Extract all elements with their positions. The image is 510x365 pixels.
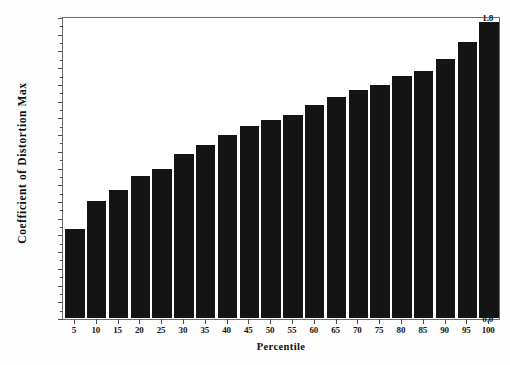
x-tick-label: 65 — [331, 325, 340, 335]
y-tick-mark — [58, 219, 63, 220]
bar — [109, 190, 129, 318]
y-tick-mark-minor — [60, 311, 63, 312]
bar — [131, 176, 151, 318]
x-tick-label: 50 — [266, 325, 275, 335]
x-tick-label: 95 — [462, 325, 471, 335]
bar — [479, 22, 499, 319]
y-axis-title: Coefficient of Distortion Max — [11, 13, 33, 313]
x-tick-mark — [466, 319, 467, 324]
x-tick-mark — [270, 319, 271, 324]
x-tick-mark — [401, 319, 402, 324]
x-tick-label: 80 — [397, 325, 406, 335]
y-tick-mark — [58, 85, 63, 86]
y-tick-mark — [58, 18, 63, 19]
y-tick-mark — [58, 269, 63, 270]
bar — [436, 59, 456, 318]
x-tick-mark — [336, 319, 337, 324]
x-tick-label: 55 — [288, 325, 297, 335]
y-tick-mark-minor — [60, 244, 63, 245]
x-tick-mark — [314, 319, 315, 324]
y-tick-mark-minor — [60, 60, 63, 61]
bar — [349, 90, 369, 318]
bar — [152, 169, 172, 319]
x-tick-label: 35 — [200, 325, 209, 335]
y-tick-mark — [58, 152, 63, 153]
x-tick-mark — [161, 319, 162, 324]
y-tick-mark — [58, 35, 63, 36]
x-tick-mark — [96, 319, 97, 324]
y-tick-mark-minor — [60, 127, 63, 128]
y-tick-mark-minor — [60, 227, 63, 228]
y-tick-mark — [58, 118, 63, 119]
y-tick-mark — [58, 302, 63, 303]
bar — [392, 76, 412, 318]
y-tick-mark-minor — [60, 260, 63, 261]
y-tick-mark-minor — [60, 294, 63, 295]
x-tick-label: 85 — [418, 325, 427, 335]
x-tick-label: 60 — [309, 325, 318, 335]
x-tick-mark — [445, 319, 446, 324]
bar — [305, 105, 325, 318]
y-tick-mark — [58, 202, 63, 203]
bar — [458, 42, 478, 318]
x-tick-label: 40 — [222, 325, 231, 335]
bar — [370, 85, 390, 318]
x-tick-mark — [205, 319, 206, 324]
y-tick-mark-minor — [60, 77, 63, 78]
x-tick-mark — [357, 319, 358, 324]
bar — [283, 115, 303, 318]
bar — [65, 229, 85, 318]
bar — [196, 145, 216, 318]
x-tick-label: 75 — [375, 325, 384, 335]
y-tick-mark — [58, 135, 63, 136]
y-tick-mark — [58, 185, 63, 186]
bar — [87, 201, 107, 318]
y-tick-mark-minor — [60, 210, 63, 211]
x-tick-mark — [227, 319, 228, 324]
bar — [240, 126, 260, 318]
bar-chart-figure: Coefficient of Distortion Max 0.00.10.20… — [0, 0, 510, 365]
y-tick-mark-minor — [60, 143, 63, 144]
y-tick-mark-minor — [60, 26, 63, 27]
x-tick-label: 20 — [135, 325, 144, 335]
x-tick-mark — [248, 319, 249, 324]
x-tick-label: 10 — [91, 325, 100, 335]
x-tick-mark — [183, 319, 184, 324]
x-tick-label: 45 — [244, 325, 253, 335]
y-tick-mark — [58, 169, 63, 170]
x-tick-label: 100 — [482, 325, 495, 335]
y-tick-mark — [58, 252, 63, 253]
bar — [414, 71, 434, 319]
y-tick-mark-minor — [60, 110, 63, 111]
bar — [218, 135, 238, 318]
y-tick-mark-minor — [60, 43, 63, 44]
bar — [174, 154, 194, 318]
y-tick-mark-minor — [60, 93, 63, 94]
y-tick-mark-minor — [60, 194, 63, 195]
x-tick-label: 25 — [157, 325, 166, 335]
x-tick-mark — [118, 319, 119, 324]
y-tick-mark — [58, 286, 63, 287]
y-tick-mark-minor — [60, 177, 63, 178]
bar-series — [64, 19, 498, 318]
y-tick-mark — [58, 102, 63, 103]
bar — [261, 120, 281, 318]
x-axis-title: Percentile — [62, 341, 500, 352]
bar — [327, 97, 347, 318]
y-tick-mark — [58, 235, 63, 236]
x-tick-label: 90 — [440, 325, 449, 335]
x-tick-mark — [423, 319, 424, 324]
y-tick-mark-minor — [60, 160, 63, 161]
x-tick-label: 5 — [72, 325, 76, 335]
x-tick-mark — [74, 319, 75, 324]
x-tick-label: 15 — [113, 325, 122, 335]
y-tick-mark — [58, 68, 63, 69]
x-tick-mark — [488, 319, 489, 324]
y-tick-mark-minor — [60, 277, 63, 278]
x-tick-label: 70 — [353, 325, 362, 335]
x-tick-label: 30 — [179, 325, 188, 335]
plot-area: 0.00.10.20.30.40.50.60.70.80.91.01.11.21… — [62, 17, 500, 320]
y-tick-mark — [58, 51, 63, 52]
x-tick-mark — [379, 319, 380, 324]
x-tick-mark — [292, 319, 293, 324]
